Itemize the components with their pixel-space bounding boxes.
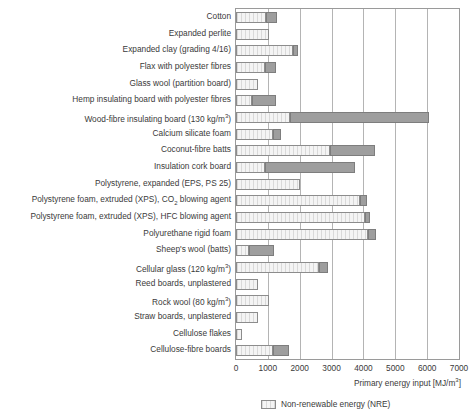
bar-segment-nre [236,79,258,90]
bar-segment-nre [236,145,330,156]
bar-segment-nre [236,262,319,273]
bar-segment-remainder [319,262,329,273]
bar-row [236,279,459,290]
bar-segment-nre [236,245,249,256]
legend-swatch-nre [261,400,276,409]
bar-segment-nre [236,179,300,190]
category-label: Coconut-fibre batts [0,145,231,154]
bar-segment-remainder [266,12,277,23]
bar-segment-nre [236,279,258,290]
legend-label-nre: Non-renewable energy (NRE) [281,399,390,409]
bar-segment-remainder [330,145,375,156]
bar-segment-nre [236,312,258,323]
bar-row [236,45,459,56]
bar-segment-remainder [265,162,356,173]
bar-row [236,62,459,73]
bar-row [236,212,459,223]
bar-segment-remainder [290,112,429,123]
bar-row [236,162,459,173]
bar-segment-remainder [365,212,370,223]
bar-row [236,29,459,40]
category-label: Glass wool (partition board) [0,79,231,88]
bar-segment-nre [236,95,252,106]
bar-row [236,12,459,23]
x-tick-7000: 7000 [439,363,473,373]
bar-segment-remainder [273,129,281,140]
category-label: Insulation cork board [0,162,231,171]
category-label: Sheep's wool (batts) [0,245,231,254]
category-label: Expanded clay (grading 4/16) [0,45,231,54]
category-label: Cellular glass (120 kg/m3) [0,262,231,274]
bar-segment-nre [236,329,242,340]
bar-segment-remainder [368,229,376,240]
category-label: Flax with polyester fibres [0,62,231,71]
x-axis-title: Primary energy input [MJ/m3] [354,377,461,388]
category-label: Wood-fibre insulating board (130 kg/m3) [0,112,231,124]
bar-row [236,329,459,340]
category-label-column: CottonExpanded perliteExpanded clay (gra… [0,8,231,360]
bar-segment-nre [236,212,365,223]
plot-area [235,8,460,360]
bar-segment-nre [236,62,265,73]
bar-segment-nre [236,112,290,123]
category-label: Polyurethane rigid foam [0,229,231,238]
category-label: Cellulose flakes [0,329,231,338]
category-label: Rock wool (80 kg/m3) [0,295,231,307]
bar-segment-nre [236,12,266,23]
bar-segment-nre [236,162,265,173]
category-label: Calcium silicate foam [0,129,231,138]
bar-row [236,145,459,156]
bar-segment-nre [236,45,293,56]
bar-row [236,295,459,306]
bar-segment-remainder [273,345,289,356]
bar-row [236,179,459,190]
category-label: Polystyrene, expanded (EPS, PS 25) [0,179,231,188]
bar-segment-remainder [252,95,276,106]
bar-segment-nre [236,345,273,356]
bar-row [236,245,459,256]
bar-segment-nre [236,29,269,40]
category-label: Polystyrene foam, extruded (XPS), CO2 bl… [0,195,231,208]
bar-row [236,345,459,356]
bar-segment-remainder [265,62,276,73]
category-label: Cotton [0,12,231,21]
bar-segment-remainder [249,245,274,256]
bar-row [236,195,459,206]
category-label: Straw boards, unplastered [0,312,231,321]
legend: Non-renewable energy (NRE) [261,399,390,409]
bar-row [236,129,459,140]
category-label: Polystyrene foam, extruded (XPS), HFC bl… [0,212,231,221]
bar-segment-remainder [360,195,366,206]
bar-row [236,262,459,273]
bar-segment-nre [236,129,273,140]
bar-row [236,229,459,240]
bar-segment-nre [236,295,269,306]
bar-row [236,112,459,123]
bar-segment-nre [236,229,368,240]
bar-segment-nre [236,195,360,206]
bar-row [236,312,459,323]
bar-row [236,95,459,106]
category-label: Expanded perlite [0,29,231,38]
category-label: Hemp insulating board with polyester fib… [0,95,231,104]
bar-row [236,79,459,90]
bar-segment-remainder [293,45,298,56]
category-label: Cellulose-fibre boards [0,345,231,354]
category-label: Reed boards, unplastered [0,279,231,288]
